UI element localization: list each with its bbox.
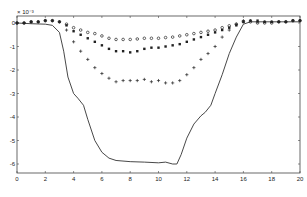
plus-marker [192,66,195,69]
square-marker [122,50,124,52]
square-marker [72,30,74,32]
y-tick-label: -3 [10,91,16,97]
plus-marker [157,79,160,82]
plus-marker [107,77,110,80]
square-marker [129,51,131,53]
solid-line-path [17,22,300,164]
x-tick-label: 6 [100,176,104,182]
line-chart: 02468101214161820 0-1-2-3-4-5-6 × 10⁻³ [0,0,307,197]
plus-marker [185,73,188,76]
square-marker [179,43,181,45]
plus-marker [228,28,231,31]
square-marker [207,34,209,36]
circle-marker [150,37,153,40]
plus-marker [122,79,125,82]
y-axis-ticks: 0-1-2-3-4-5-6 [10,20,300,167]
x-axis-ticks: 02468101214161820 [15,16,304,182]
y-tick-label: -5 [10,138,16,144]
circle-marker [72,26,75,29]
y-tick-label: -1 [10,44,16,50]
plus-marker [100,72,103,75]
circle-marker [115,38,118,41]
square-marker [115,50,117,52]
plus-marker [199,58,202,61]
square-marker [200,36,202,38]
solid-line-series [17,22,300,164]
x-tick-label: 16 [240,176,247,182]
plus-marker [214,45,217,48]
circle-marker [143,37,146,40]
circle-marker [193,32,196,35]
plus-marker [72,40,75,43]
y-tick-label: 0 [12,20,16,26]
circle-marker [214,29,217,32]
circle-marker [200,31,203,34]
square-marker [136,50,138,52]
circle-marker [164,36,167,39]
circle-marker [171,36,174,39]
plus-marker [93,66,96,69]
plus-marker [129,79,132,82]
circle-marker [207,30,210,33]
y-tick-label: -2 [10,67,16,73]
plus-marker [150,80,153,83]
plus-marker [114,80,117,83]
plus-markers-series [15,19,301,84]
plus-marker [206,52,209,55]
y-scale-annotation: × 10⁻³ [17,9,34,15]
square-marker [108,48,110,50]
x-tick-label: 18 [268,176,275,182]
y-tick-label: -4 [10,114,16,120]
circle-marker [79,29,82,32]
square-marker [94,41,96,43]
x-tick-label: 8 [129,176,133,182]
circle-marker [186,33,189,36]
open-circle-markers-series [16,19,302,40]
circle-marker [129,38,132,41]
square-marker [171,44,173,46]
x-tick-label: 14 [212,176,219,182]
circle-marker [86,31,89,34]
plus-marker [221,36,224,39]
plus-marker [143,78,146,81]
x-tick-label: 0 [15,176,19,182]
plus-marker [65,28,68,31]
x-tick-label: 10 [155,176,162,182]
square-marker [164,45,166,47]
circle-marker [94,32,97,35]
x-tick-label: 2 [44,176,48,182]
square-marker [143,48,145,50]
circle-marker [178,35,181,38]
series-layer [15,19,301,164]
square-marker [101,44,103,46]
x-tick-label: 4 [72,176,76,182]
circle-marker [136,38,139,41]
plus-marker [136,79,139,82]
square-marker [157,46,159,48]
square-marker [150,46,152,48]
square-marker [186,41,188,43]
square-marker [193,38,195,40]
plus-marker [171,81,174,84]
square-marker [87,37,89,39]
y-tick-label: -6 [10,161,16,167]
x-tick-label: 20 [297,176,304,182]
circle-marker [101,35,104,38]
circle-marker [122,38,125,41]
filled-square-markers-series [16,19,301,53]
square-marker [79,34,81,36]
circle-marker [221,26,224,29]
plus-marker [86,58,89,61]
circle-marker [157,37,160,40]
circle-marker [108,37,111,40]
plus-marker [164,81,167,84]
x-tick-label: 12 [183,176,190,182]
plus-marker [178,79,181,82]
plus-marker [79,50,82,53]
